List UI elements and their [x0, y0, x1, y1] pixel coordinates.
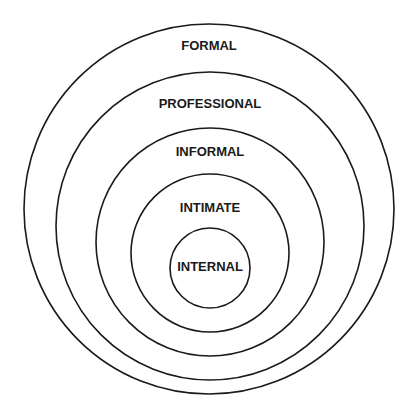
ring-informal [96, 128, 324, 356]
label-informal: INFORMAL [176, 144, 245, 159]
label-formal: FORMAL [181, 38, 237, 53]
label-internal: INTERNAL [177, 259, 243, 274]
concentric-circles-diagram: FORMAL PROFESSIONAL INFORMAL INTIMATE IN… [0, 0, 410, 418]
ring-professional [56, 72, 364, 380]
label-professional: PROFESSIONAL [159, 96, 262, 111]
label-intimate: INTIMATE [180, 200, 241, 215]
